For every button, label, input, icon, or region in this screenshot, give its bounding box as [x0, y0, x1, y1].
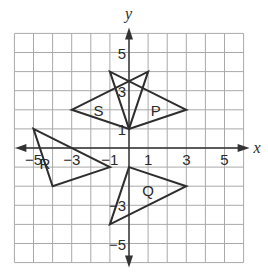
x-axis-label: x — [253, 139, 261, 156]
y-axis-arrow-down-icon — [125, 256, 133, 268]
y-axis-label: y — [123, 5, 133, 23]
y-tick-label: 3 — [118, 83, 126, 100]
x-tick-label: 5 — [220, 151, 228, 168]
y-tick-label: 5 — [118, 45, 126, 62]
x-tick-label: 1 — [144, 151, 152, 168]
triangle-label-r: R — [40, 155, 51, 172]
coordinate-plane: xy−5−3−1135531−3−5SPRQ — [0, 0, 268, 279]
triangle-label-q: Q — [142, 182, 154, 199]
x-tick-label: 3 — [182, 151, 190, 168]
triangle-label-s: S — [93, 102, 103, 119]
y-tick-label: −3 — [109, 197, 126, 214]
y-tick-label: −5 — [109, 236, 126, 253]
axes — [15, 27, 249, 267]
x-tick-label: −3 — [63, 151, 80, 168]
triangle-label-p: P — [151, 102, 161, 119]
y-tick-label: 1 — [118, 121, 126, 138]
x-tick-label: −1 — [101, 151, 118, 168]
